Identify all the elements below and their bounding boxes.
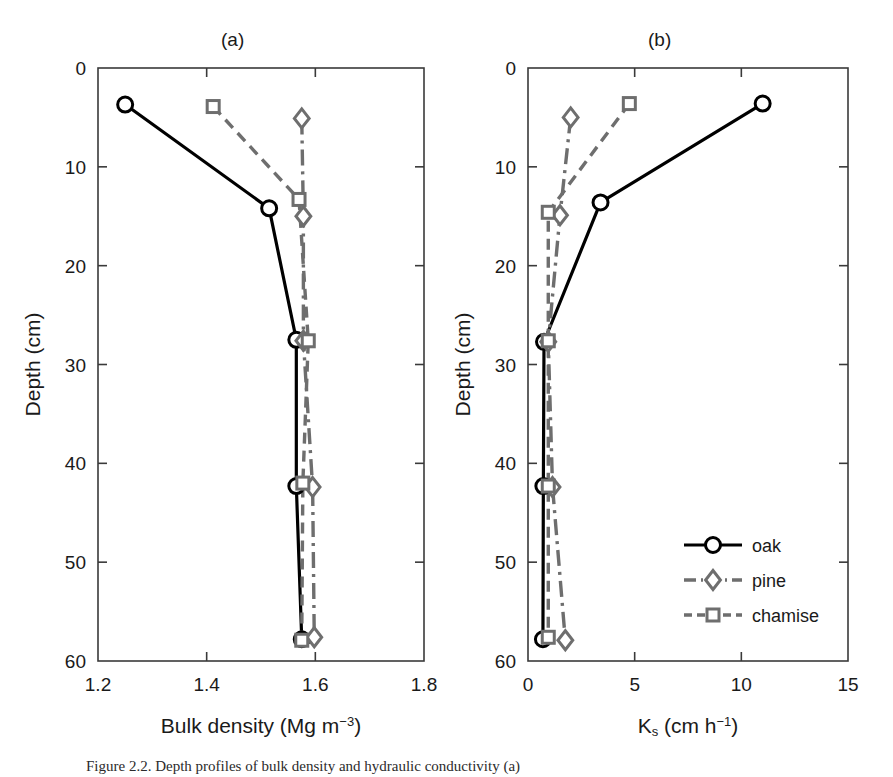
circle-marker — [118, 97, 133, 112]
marker-circle — [262, 201, 277, 216]
y-tick-label: 20 — [65, 256, 86, 277]
x-axis-title-panel-a: Bulk density (Mg m−3) — [161, 714, 361, 738]
y-tick-label: 50 — [495, 552, 516, 573]
marker-square — [207, 101, 219, 113]
circle-marker — [262, 201, 277, 216]
marker-circle — [755, 96, 770, 111]
marker-square — [297, 477, 309, 489]
marker-square — [623, 98, 635, 110]
y-tick-label: 50 — [65, 552, 86, 573]
square-marker — [297, 477, 309, 489]
x-tick-label: 1.2 — [85, 674, 111, 695]
square-marker — [542, 631, 554, 643]
marker-square — [542, 206, 554, 218]
legend-label-pine: pine — [752, 571, 786, 591]
y-tick-label: 30 — [495, 355, 516, 376]
marker-square — [296, 634, 308, 646]
panel-title-panel-a: (a) — [221, 29, 244, 50]
x-tick-label: 10 — [731, 674, 752, 695]
y-tick-label: 60 — [65, 651, 86, 672]
y-tick-label: 10 — [65, 157, 86, 178]
soil-profile-figure: (a)1.21.41.61.80102030405060Depth (cm)Bu… — [0, 0, 893, 777]
x-tick-label: 15 — [837, 674, 858, 695]
x-tick-label: 0 — [523, 674, 534, 695]
circle-marker — [706, 538, 721, 553]
square-marker — [293, 193, 305, 205]
y-tick-label: 10 — [495, 157, 516, 178]
square-marker — [296, 634, 308, 646]
square-marker — [542, 335, 554, 347]
panel-title-panel-b: (b) — [648, 29, 671, 50]
circle-marker — [755, 96, 770, 111]
y-axis-title-panel-b: Depth (cm) — [451, 313, 474, 417]
square-marker — [623, 98, 635, 110]
y-tick-label: 40 — [65, 453, 86, 474]
square-marker — [302, 335, 314, 347]
marker-circle — [118, 97, 133, 112]
y-axis-title-panel-a: Depth (cm) — [21, 313, 44, 417]
y-tick-label: 30 — [65, 355, 86, 376]
square-marker — [707, 609, 719, 621]
square-marker — [207, 101, 219, 113]
marker-square — [542, 631, 554, 643]
marker-square — [302, 335, 314, 347]
marker-square — [542, 335, 554, 347]
square-marker — [542, 480, 554, 492]
y-tick-label: 20 — [495, 256, 516, 277]
x-tick-label: 5 — [629, 674, 640, 695]
square-marker — [542, 206, 554, 218]
x-tick-label: 1.6 — [302, 674, 328, 695]
marker-square — [707, 609, 719, 621]
y-tick-label: 40 — [495, 453, 516, 474]
legend-label-chamise: chamise — [752, 606, 819, 626]
x-tick-label: 1.8 — [411, 674, 437, 695]
y-tick-label: 60 — [495, 651, 516, 672]
circle-marker — [593, 195, 608, 210]
marker-circle — [706, 538, 721, 553]
figure-caption: Figure 2.2. Depth profiles of bulk densi… — [86, 756, 886, 776]
marker-square — [293, 193, 305, 205]
y-tick-label: 0 — [505, 58, 516, 79]
y-tick-label: 0 — [75, 58, 86, 79]
figure-root: (a)1.21.41.61.80102030405060Depth (cm)Bu… — [0, 0, 893, 777]
marker-square — [542, 480, 554, 492]
x-tick-label: 1.4 — [193, 674, 220, 695]
marker-circle — [593, 195, 608, 210]
legend-label-oak: oak — [752, 536, 782, 556]
